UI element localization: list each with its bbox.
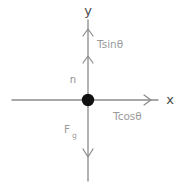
- y-axis-label: y: [84, 3, 92, 18]
- origin-dot: [82, 94, 94, 106]
- gravity-force-label-main: F: [64, 123, 70, 135]
- force-diagram-canvas: y x Tsinθ n Tcosθ F g: [0, 0, 184, 192]
- tcos-theta-label: Tcosθ: [112, 110, 142, 122]
- tsin-theta-label: Tsinθ: [96, 38, 123, 50]
- free-body-diagram: y x Tsinθ n Tcosθ F g: [0, 0, 184, 192]
- gravity-force-label-subscript: g: [72, 131, 77, 140]
- gravity-force-label: F g: [64, 123, 77, 140]
- x-axis-label: x: [166, 92, 174, 107]
- normal-force-label: n: [70, 74, 76, 85]
